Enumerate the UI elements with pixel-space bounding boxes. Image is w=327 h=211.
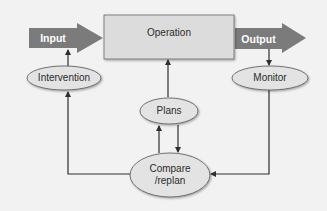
compare-ellipse [130, 153, 210, 197]
control-loop-diagram [0, 0, 327, 211]
plans-ellipse [140, 98, 198, 124]
operation-box [104, 15, 234, 59]
output-block-arrow [235, 23, 306, 53]
intervention-ellipse [27, 66, 101, 90]
input-block-arrow [29, 23, 103, 53]
edge-compare-to-intervention [68, 92, 131, 174]
monitor-ellipse [232, 66, 308, 90]
edge-monitor-to-compare [211, 90, 269, 174]
